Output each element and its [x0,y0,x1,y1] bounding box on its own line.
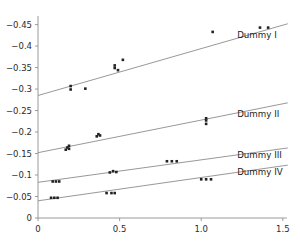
data-point-marker [58,180,61,183]
data-point-marker [113,192,116,195]
series-labels-group: Dummy IDummy IIDummy IIIDummy IV [237,30,283,177]
series-label: Dummy IV [237,167,283,177]
data-point-marker [175,160,178,163]
x-tick-label: 0 [35,224,40,234]
data-point-marker [115,171,118,174]
series-label: Dummy III [237,150,282,160]
scatter-plot-figure: 0−0.05−0.1−0.15−0.2−0.25−0.3−0.35−0.4−0.… [0,0,300,249]
data-point-marker [259,26,262,29]
y-axis-ticks: 0−0.05−0.1−0.15−0.2−0.25−0.3−0.35−0.4−0.… [6,20,38,223]
data-point-marker [205,178,208,181]
y-tick-label: −0.2 [11,127,32,137]
data-point-marker [113,67,116,70]
series-label: Dummy I [237,30,277,40]
data-point-marker [69,88,72,91]
data-point-marker [53,197,56,200]
chart-canvas: 0−0.05−0.1−0.15−0.2−0.25−0.3−0.35−0.4−0.… [0,0,300,249]
data-point-marker [51,180,54,183]
data-point-marker [205,117,208,120]
data-point-marker [55,180,58,183]
y-tick-label: −0.05 [6,192,32,202]
series-label: Dummy II [237,109,279,119]
data-point-marker [113,64,116,67]
data-point-marker [122,59,125,62]
data-point-marker [166,160,169,163]
data-point-marker [99,134,102,137]
y-tick-label: −0.35 [6,63,32,73]
data-point-marker [56,197,59,200]
y-tick-label: −0.25 [6,106,32,116]
x-axis-ticks: 00.51.01.5 [35,218,289,234]
data-point-marker [68,144,71,147]
data-point-marker [210,178,213,181]
data-point-marker [105,192,108,195]
y-tick-label: −0.3 [11,84,32,94]
y-tick-label: −0.1 [11,170,32,180]
data-point-marker [68,148,71,151]
data-point-marker [112,170,115,173]
y-tick-label: −0.45 [6,20,32,30]
x-tick-label: 1.0 [194,224,208,234]
y-tick-label: −0.15 [6,149,32,159]
data-point-marker [110,192,113,195]
data-point-marker [200,178,203,181]
data-point-marker [117,69,120,72]
data-point-marker [267,26,270,29]
data-point-marker [109,171,112,174]
data-point-marker [69,85,72,88]
x-tick-label: 1.5 [276,224,290,234]
x-tick-label: 0.5 [113,224,127,234]
data-point-marker [171,160,174,163]
y-tick-label: 0 [27,213,32,223]
data-point-marker [211,31,214,34]
data-point-marker [50,197,53,200]
data-point-marker [205,123,208,126]
y-tick-label: −0.4 [11,41,32,51]
data-point-marker [84,87,87,90]
